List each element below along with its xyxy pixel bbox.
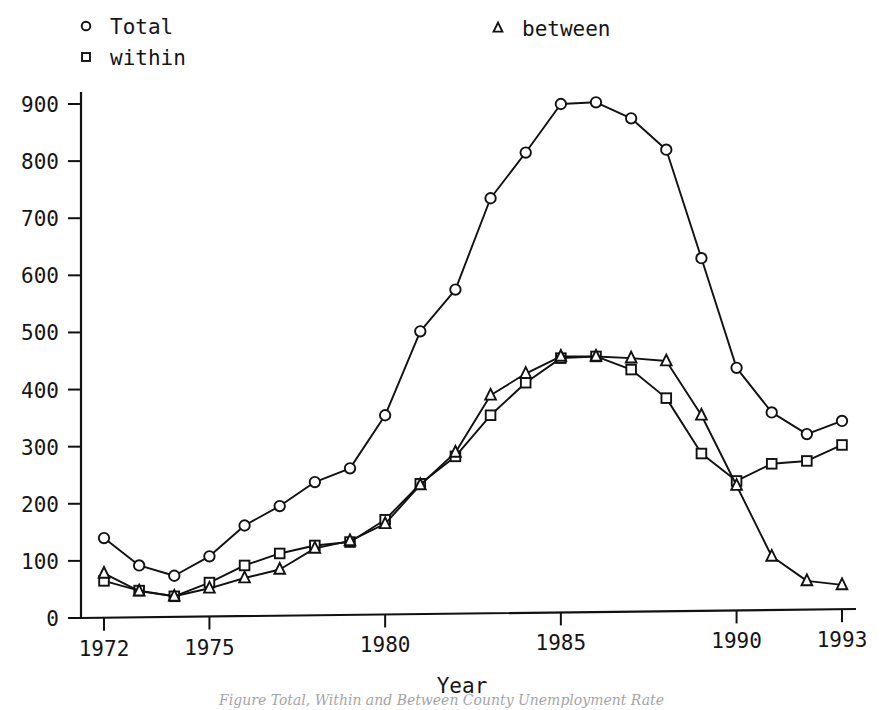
y-axis-tick-label: 600 [21, 264, 59, 288]
marker-square-within-1977 [275, 549, 285, 559]
y-axis-tick-label: 700 [21, 207, 59, 231]
marker-circle-total-1984 [521, 147, 531, 157]
marker-square-within-1988 [661, 393, 671, 403]
marker-circle-total-1988 [661, 144, 671, 154]
circle-icon [82, 22, 91, 31]
marker-circle-total-1975 [204, 551, 214, 561]
series-within [99, 352, 847, 601]
marker-circle-total-1991 [767, 407, 777, 417]
marker-square-within-1993 [837, 440, 847, 450]
marker-circle-total-1979 [345, 463, 355, 473]
marker-circle-total-1980 [380, 410, 390, 420]
axis-lines [81, 92, 856, 618]
marker-circle-total-1993 [837, 416, 847, 426]
legend-label-between: between [522, 17, 611, 41]
chart-legend: Totalwithinbetween [82, 15, 611, 70]
y-axis-tick-label: 100 [21, 550, 59, 574]
marker-square-within-1983 [486, 410, 496, 420]
x-axis-tick-label: 1990 [711, 629, 762, 653]
marker-square-within-1992 [802, 456, 812, 466]
x-axis-tick-label: 1980 [360, 633, 411, 657]
marker-square-within-1984 [521, 378, 531, 388]
line-chart: Totalwithinbetween 010020030040050060070… [0, 0, 883, 710]
marker-circle-total-1977 [275, 501, 285, 511]
marker-circle-total-1989 [696, 253, 706, 263]
marker-circle-total-1990 [731, 363, 741, 373]
marker-triangle-between-1972 [99, 567, 110, 578]
marker-triangle-between-1991 [766, 550, 777, 561]
chart-figure: Totalwithinbetween 010020030040050060070… [0, 0, 883, 710]
marker-circle-total-1985 [556, 99, 566, 109]
marker-triangle-between-1983 [485, 389, 496, 400]
marker-circle-total-1972 [99, 533, 109, 543]
marker-triangle-between-1977 [274, 563, 285, 574]
marker-square-within-1989 [697, 449, 707, 459]
marker-circle-total-1978 [310, 477, 320, 487]
marker-circle-total-1992 [802, 429, 812, 439]
legend-label-total: Total [110, 15, 173, 39]
y-axis-tick-label: 300 [21, 436, 59, 460]
marker-circle-total-1986 [591, 97, 601, 107]
marker-square-within-1991 [767, 459, 777, 469]
y-axis-tick-label: 800 [21, 150, 59, 174]
y-axis-tick-label: 400 [21, 379, 59, 403]
marker-square-within-1987 [626, 365, 636, 375]
marker-triangle-between-1992 [802, 574, 813, 585]
legend-item-within: within [82, 46, 186, 70]
marker-circle-total-1987 [626, 113, 636, 123]
series-total [99, 97, 847, 581]
marker-circle-total-1974 [169, 571, 179, 581]
legend-item-total: Total [82, 15, 174, 39]
marker-circle-total-1976 [239, 520, 249, 530]
triangle-icon [494, 23, 503, 32]
series-line-total [104, 102, 842, 575]
marker-square-within-1976 [240, 561, 250, 571]
y-axis-tick-label: 900 [21, 93, 59, 117]
marker-circle-total-1973 [134, 560, 144, 570]
x-axis-tick-label: 1972 [79, 637, 130, 661]
figure-caption: Figure Total, Within and Between County … [0, 692, 883, 710]
chart-axes: 0100200300400500600700800900197219751980… [21, 92, 867, 661]
x-axis-tick-label: 1975 [184, 636, 235, 660]
marker-circle-total-1982 [450, 284, 460, 294]
legend-item-between: between [494, 17, 611, 41]
x-axis-tick-label: 1985 [536, 631, 587, 655]
chart-series [99, 97, 848, 601]
marker-circle-total-1981 [415, 326, 425, 336]
y-axis-tick-label: 200 [21, 493, 59, 517]
y-axis-tick-label: 500 [21, 321, 59, 345]
y-axis-tick-label: 0 [46, 607, 59, 631]
x-axis-tick-label: 1993 [817, 628, 868, 652]
legend-label-within: within [110, 46, 186, 70]
square-icon [82, 53, 90, 61]
series-line-between [104, 356, 842, 596]
marker-circle-total-1983 [485, 193, 495, 203]
